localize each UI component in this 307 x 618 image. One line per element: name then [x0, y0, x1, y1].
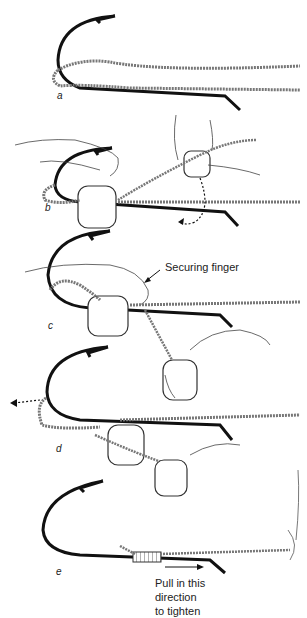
- rotate-arrow-icon: [180, 178, 205, 224]
- line-free: [145, 310, 172, 360]
- line-lower: [53, 70, 300, 90]
- step-label-b: b: [45, 202, 51, 213]
- step-b-illustration: [15, 115, 300, 228]
- fingertip: [108, 425, 144, 465]
- annotation-line: direction: [155, 590, 205, 604]
- step-label-e: e: [56, 566, 62, 577]
- step-c-illustration: [25, 231, 300, 400]
- fingertip: [78, 186, 116, 228]
- line-upper: [58, 61, 300, 70]
- hook-icon: [48, 231, 232, 327]
- hand-outline: [15, 140, 118, 176]
- fingertip: [184, 151, 210, 177]
- line-main: [120, 415, 300, 420]
- step-d-illustration: [10, 347, 300, 496]
- step-label-d: d: [56, 443, 62, 454]
- step-label-a: a: [57, 90, 63, 101]
- line-main: [130, 302, 300, 305]
- annotation-line: to tighten: [155, 604, 205, 618]
- fingertip: [88, 296, 128, 336]
- pull-arrow-icon: [14, 400, 40, 403]
- fingertip: [163, 360, 197, 400]
- fingertip: [155, 460, 187, 496]
- line-main: [160, 550, 290, 554]
- line-loop: [44, 185, 80, 203]
- securing-finger-annotation: Securing finger: [165, 260, 239, 274]
- step-label-c: c: [48, 320, 53, 331]
- annotation-line: Pull in this: [155, 576, 205, 590]
- hand-outline: [25, 264, 148, 305]
- step-a-illustration: [53, 16, 300, 110]
- pull-direction-annotation: Pull in this direction to tighten: [155, 576, 205, 618]
- knot-wraps: [133, 552, 161, 562]
